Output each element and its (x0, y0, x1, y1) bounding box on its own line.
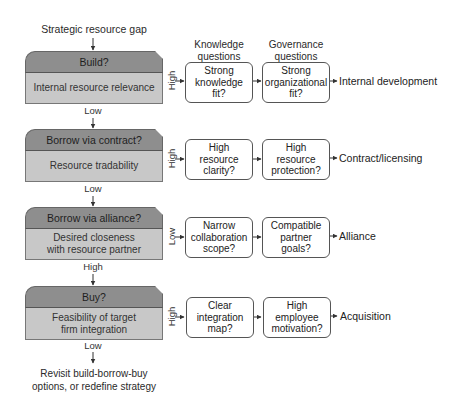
end-label: Revisit build-borrow-buy options, or red… (20, 368, 168, 393)
knowledge-question-box: High resource clarity? (185, 139, 253, 180)
governance-question-box: High employee motivation? (263, 297, 331, 338)
knowledge-question-box: Clear integration map? (186, 297, 254, 338)
end-label-line1: Revisit build-borrow-buy (20, 368, 168, 381)
outcome-label: Contract/licensing (339, 152, 422, 164)
knowledge-question-box: Narrow collaboration scope? (185, 217, 253, 258)
governance-question-box: High resource protection? (262, 139, 330, 180)
governance-question-box: Strong organizational fit? (262, 62, 330, 103)
decision-criterion: Feasibility of target firm integration (25, 308, 163, 340)
decision-criterion: Resource tradability (25, 151, 163, 182)
knowledge-question-box: Strong knowledge fit? (185, 62, 253, 103)
branch-label: High (166, 148, 177, 170)
start-label: Strategic resource gap (25, 24, 163, 36)
branch-label: High (166, 70, 177, 92)
down-label: Low (73, 340, 113, 351)
knowledge-header-line1: Knowledge (186, 39, 252, 51)
decision-header: Borrow via alliance? (25, 207, 163, 229)
down-label: Low (73, 183, 113, 194)
decision-box-build: Build? Internal resource relevance (25, 51, 163, 104)
decision-box-borrow-contract: Borrow via contract? Resource tradabilit… (25, 129, 163, 182)
decision-header: Borrow via contract? (25, 129, 163, 151)
down-label: Low (73, 105, 113, 116)
decision-header: Build? (25, 51, 163, 73)
governance-header-line1: Governance (263, 39, 329, 51)
decision-header: Buy? (25, 286, 163, 308)
decision-criterion: Desired closeness with resource partner (25, 229, 163, 260)
governance-questions-header: Governance questions (263, 39, 329, 62)
governance-question-box: Compatible partner goals? (262, 217, 330, 258)
decision-criterion: Internal resource relevance (25, 73, 163, 104)
decision-box-buy: Buy? Feasibility of target firm integrat… (25, 286, 163, 340)
knowledge-header-line2: questions (186, 51, 252, 63)
branch-label: High (166, 306, 177, 328)
decision-box-borrow-alliance: Borrow via alliance? Desired closeness w… (25, 207, 163, 260)
end-label-line2: options, or redefine strategy (20, 381, 168, 394)
outcome-label: Internal development (339, 75, 437, 87)
knowledge-questions-header: Knowledge questions (186, 39, 252, 62)
down-label: High (73, 261, 113, 272)
outcome-label: Acquisition (340, 310, 391, 322)
governance-header-line2: questions (263, 51, 329, 63)
branch-label: Low (166, 226, 177, 248)
outcome-label: Alliance (339, 230, 376, 242)
